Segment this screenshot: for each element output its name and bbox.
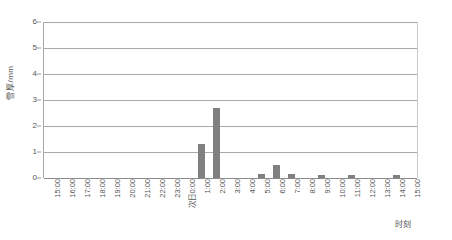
bar [273, 165, 280, 178]
x-tick-label: 17:00 [84, 179, 92, 198]
snow-depth-bar-chart: 雪厚/mm 0123456 15:0016:0017:0018:0019:002… [0, 0, 452, 240]
x-tick-label: 4:00 [249, 179, 257, 194]
x-tick-label: 19:00 [114, 179, 122, 198]
x-tick-label: 15:00 [54, 179, 62, 198]
y-tick-mark [37, 74, 41, 75]
x-tick-label: 8:00 [309, 179, 317, 194]
x-tick-label: 次日0:00 [189, 179, 197, 208]
bar [318, 175, 325, 178]
y-axis-title-text: 雪厚/mm [4, 65, 15, 99]
y-tick-mark [37, 48, 41, 49]
bar [288, 174, 295, 178]
plot-area [43, 22, 418, 178]
x-axis-tick-labels: 15:0016:0017:0018:0019:0020:0021:0022:00… [43, 179, 418, 237]
x-tick-label: 7:00 [294, 179, 302, 194]
bar [258, 174, 265, 178]
x-tick-label: 22:00 [159, 179, 167, 198]
bar-series [44, 22, 417, 178]
x-tick-label: 11:00 [354, 179, 362, 197]
y-axis-title: 雪厚/mm [2, 22, 16, 142]
x-tick-label: 13:00 [384, 179, 392, 198]
y-axis-ticks: 0123456 [26, 22, 40, 178]
x-tick-label: 6:00 [279, 179, 287, 194]
bar [348, 175, 355, 178]
bar [198, 144, 205, 178]
x-tick-label: 14:00 [399, 179, 407, 198]
x-tick-label: 9:00 [324, 179, 332, 194]
x-tick-label: 5:00 [264, 179, 272, 194]
bar [393, 175, 400, 178]
x-tick-label: 12:00 [369, 179, 377, 198]
bar [213, 108, 220, 178]
x-tick-label: 1:00 [204, 179, 212, 194]
x-tick-label: 21:00 [144, 179, 152, 198]
y-tick-mark [37, 152, 41, 153]
y-tick-mark [37, 178, 41, 179]
x-tick-label: 10:00 [339, 179, 347, 198]
x-tick-label: 18:00 [99, 179, 107, 198]
x-tick-label: 20:00 [129, 179, 137, 198]
x-tick-label: 16:00 [69, 179, 77, 198]
y-tick-mark [37, 126, 41, 127]
x-tick-label: 23:00 [174, 179, 182, 198]
x-tick-label: 2:00 [219, 179, 227, 194]
y-tick-mark [37, 100, 41, 101]
x-tick-label: 3:00 [234, 179, 242, 194]
x-tick-label: 15:00 [414, 179, 422, 198]
y-tick-mark [37, 22, 41, 23]
x-axis-title: 时刻 [395, 218, 411, 229]
